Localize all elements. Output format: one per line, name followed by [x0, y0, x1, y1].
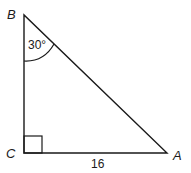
right-angle-marker	[24, 136, 42, 153]
triangle-abc	[24, 15, 167, 153]
side-ca-length: 16	[91, 157, 105, 171]
triangle-diagram: B C A 30° 16	[0, 0, 191, 173]
vertex-label-b: B	[7, 7, 16, 22]
vertex-label-c: C	[6, 146, 16, 161]
angle-b-label: 30°	[28, 38, 46, 52]
vertex-label-a: A	[172, 148, 182, 163]
